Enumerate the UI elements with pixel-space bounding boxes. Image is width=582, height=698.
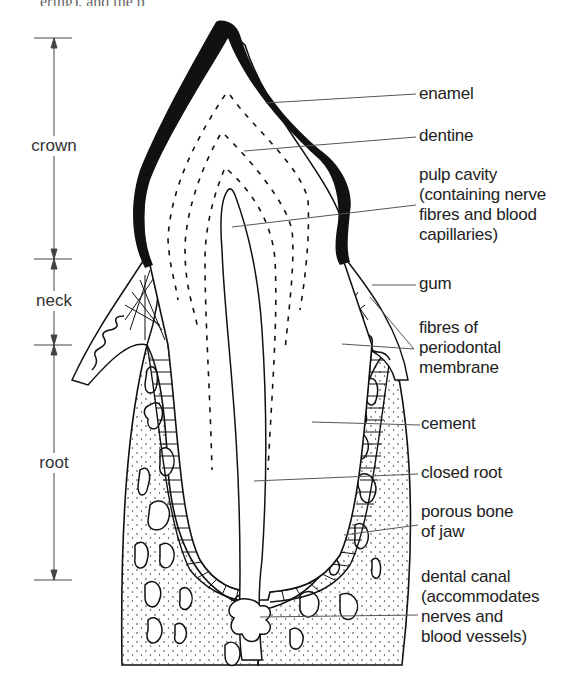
label-fibres-periodontal-membrane: fibres of periodontal membrane [419, 318, 501, 378]
dimension-label-neck: neck [30, 291, 78, 311]
label-dental-canal: dental canal (accommodates nerves and bl… [421, 567, 539, 647]
label-pulp-cavity: pulp cavity (containing nerve fibres and… [419, 165, 581, 245]
dimension-label-crown: crown [26, 136, 82, 156]
dimension-label-root: root [30, 453, 78, 473]
label-dentine: dentine [419, 126, 473, 146]
label-closed-root: closed root [421, 463, 502, 483]
label-enamel: enamel [419, 84, 474, 104]
label-cement: cement [421, 414, 476, 434]
label-gum: gum [419, 274, 451, 294]
label-porous-bone-of-jaw: porous bone of jaw [421, 502, 513, 542]
